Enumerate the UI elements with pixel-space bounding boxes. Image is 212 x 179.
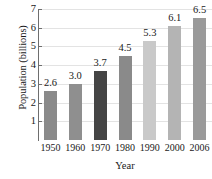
- bar: [44, 91, 57, 140]
- y-tick-label: 1: [22, 116, 36, 127]
- x-tick-label: 1950: [36, 143, 64, 153]
- bar-value-label: 6.1: [161, 13, 189, 24]
- y-tickmark: [38, 9, 42, 10]
- y-tick-label: 5: [22, 41, 36, 52]
- y-tickmark: [38, 46, 42, 47]
- y-tick-label: 3: [22, 79, 36, 90]
- bar-value-label: 6.5: [186, 5, 212, 16]
- y-tickmark: [38, 28, 42, 29]
- bar-value-label: 3.0: [61, 71, 89, 82]
- x-tick-label: 1980: [111, 143, 139, 153]
- x-tick-label: 2000: [161, 143, 189, 153]
- population-bar-chart: Population (billions) 1234567 2.63.03.74…: [0, 0, 212, 179]
- bar: [69, 84, 82, 140]
- y-tick-label: 4: [22, 60, 36, 71]
- y-tickmark: [38, 103, 42, 104]
- x-tick-label: 1970: [86, 143, 114, 153]
- y-tick-label: 7: [22, 4, 36, 15]
- bar: [168, 26, 181, 140]
- x-tick-label: 2006: [186, 143, 212, 153]
- bar: [94, 71, 107, 140]
- x-axis-title: Year: [38, 160, 212, 171]
- bar-value-label: 3.7: [86, 58, 114, 69]
- y-axis-tick-labels: 1234567: [18, 9, 36, 140]
- bar: [143, 41, 156, 140]
- x-tick-label: 1990: [136, 143, 164, 153]
- y-tickmark: [38, 65, 42, 66]
- bar-value-label: 5.3: [136, 28, 164, 39]
- bar: [119, 56, 132, 140]
- x-axis-tick-labels: 1950196019701980199020002006: [38, 143, 212, 157]
- y-tickmark: [38, 121, 42, 122]
- plot-area: 2.63.03.74.55.36.16.5: [38, 9, 212, 140]
- y-tick-label: 6: [22, 23, 36, 34]
- bar-value-label: 2.6: [36, 78, 64, 89]
- x-tick-label: 1960: [61, 143, 89, 153]
- bar: [193, 18, 206, 140]
- y-tick-label: 2: [22, 98, 36, 109]
- bar-value-label: 4.5: [111, 43, 139, 54]
- gridline: [38, 28, 212, 29]
